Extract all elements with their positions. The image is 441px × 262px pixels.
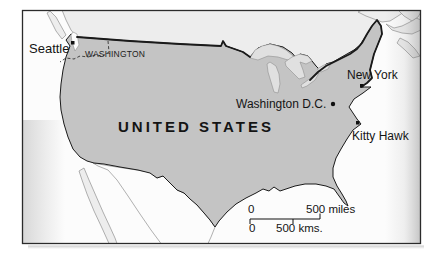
scale-miles-label: 500 miles [306, 203, 355, 215]
scale-kms-label: 500 kms. [276, 222, 323, 234]
frame-shadow [28, 246, 424, 250]
washington-state-label: WASHINGTON [85, 49, 145, 59]
kitty-hawk-label: Kitty Hawk [352, 129, 410, 143]
new-york-label: New York [347, 68, 399, 82]
washington-dc-marker [331, 102, 335, 106]
scale-miles-zero-label: 0 [248, 203, 254, 215]
scale-kms-zero-label: 0 [249, 222, 255, 234]
new-york-marker [360, 84, 364, 88]
washington-dc-label: Washington D.C. [236, 97, 326, 111]
map-figure: Seattle WASHINGTON UNITED STATES New Yor… [0, 0, 441, 262]
seattle-label: Seattle [29, 41, 69, 56]
united-states-label: UNITED STATES [118, 118, 274, 135]
us-map-svg: Seattle WASHINGTON UNITED STATES New Yor… [0, 0, 441, 262]
seattle-marker [71, 41, 75, 45]
kitty-hawk-marker [356, 121, 360, 125]
